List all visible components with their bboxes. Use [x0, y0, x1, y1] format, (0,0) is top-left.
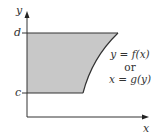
d-label: d	[14, 27, 21, 38]
x-axis-arrow-icon	[142, 115, 149, 120]
y-axis-arrow-icon	[25, 11, 30, 18]
region-diagram: y d c x y = f(x) or x = g(y)	[0, 0, 157, 136]
y-axis-label: y	[16, 5, 22, 16]
c-label: c	[15, 87, 21, 98]
curve-equation-line1: y = f(x)	[100, 49, 157, 60]
curve-equation-or: or	[100, 62, 157, 73]
x-axis-label: x	[143, 123, 149, 134]
curve-equation-line2: x = g(y)	[100, 74, 157, 85]
